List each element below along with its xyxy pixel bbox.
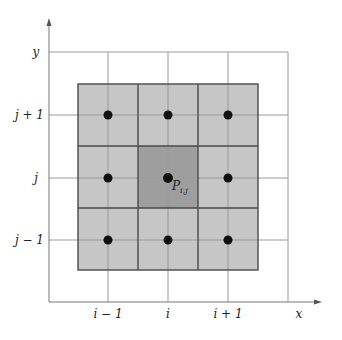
y-tick-label: j + 1: [12, 108, 44, 122]
node: [104, 111, 113, 120]
node: [224, 174, 233, 183]
node: [104, 174, 113, 183]
y-tick-label: j: [31, 171, 38, 185]
node: [224, 236, 233, 245]
x-axis-label: x: [296, 307, 303, 321]
node: [164, 111, 173, 120]
stencil-diagram: Pi,j y x i − 1 i i + 1 j + 1 j j − 1: [0, 0, 342, 340]
node: [164, 236, 173, 245]
x-tick-label: i + 1: [213, 307, 242, 321]
x-axis-arrow-icon: [314, 300, 322, 305]
y-tick-label: j − 1: [12, 233, 44, 247]
x-tick-label: i − 1: [93, 307, 122, 321]
node: [104, 236, 113, 245]
x-tick-label: i: [166, 307, 170, 321]
y-axis-arrow-icon: [47, 18, 52, 26]
node: [224, 111, 233, 120]
y-axis-label: y: [32, 45, 40, 59]
